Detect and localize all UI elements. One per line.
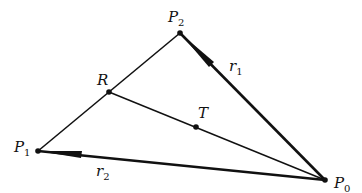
point-r [106,89,112,95]
point-p2 [177,30,183,36]
label-t: T [198,104,209,122]
vector-triangle-diagram: P2 P1 P0 R T r1 r2 [0,0,362,193]
point-p0 [322,177,328,183]
label-r: R [96,71,108,89]
label-r2: r2 [96,162,110,182]
label-p1: P1 [13,138,30,158]
vector-r2-arrowhead [38,151,82,158]
segment-r-p0 [109,92,325,180]
label-p2: P2 [167,8,184,28]
point-t [193,124,199,130]
label-p0: P0 [333,174,350,193]
label-r1: r1 [229,57,243,77]
point-p1 [35,148,41,154]
vector-r1-arrowhead [180,33,214,67]
